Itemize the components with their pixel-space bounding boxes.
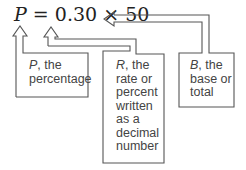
label-text: rate or	[116, 73, 159, 87]
percentage-label: P, the percentage	[29, 59, 92, 86]
label-text: , the	[198, 58, 222, 72]
label-text: written	[116, 100, 159, 114]
label-text: as a	[116, 113, 159, 127]
label-text: , the	[125, 58, 149, 72]
label-text: percentage	[29, 73, 92, 87]
label-text: decimal	[116, 127, 159, 141]
label-text: percent	[116, 86, 159, 100]
rate-var: R	[116, 58, 125, 72]
base-label: B, the base or total	[190, 59, 232, 100]
label-text: base or	[190, 73, 232, 87]
label-text: number	[116, 140, 159, 154]
rate-label: R, the rate or percent written as a deci…	[116, 59, 159, 154]
label-text: total	[190, 86, 232, 100]
label-text: , the	[37, 58, 61, 72]
